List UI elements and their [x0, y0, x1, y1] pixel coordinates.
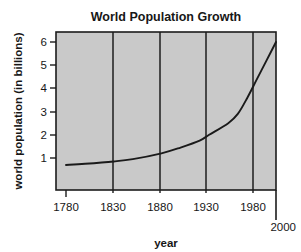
y-tick-label-6: 6	[41, 36, 47, 48]
x-tick-label-2000: 2000	[270, 221, 296, 233]
y-tick-label-1: 1	[41, 152, 47, 164]
chart-container: World Population Growth 6 5 4 3 2 1 worl…	[0, 0, 301, 252]
x-tick-label-1930: 1930	[193, 201, 219, 213]
y-tick-label-5: 5	[41, 59, 47, 71]
y-axis-title: world population (in billions)	[12, 32, 24, 190]
x-tick-label-1880: 1880	[147, 201, 173, 213]
x-axis-title: year	[154, 237, 178, 249]
x-tick-label-1780: 1780	[53, 201, 79, 213]
x-tick-label-1980: 1980	[240, 201, 266, 213]
y-tick-label-3: 3	[41, 106, 47, 118]
x-tick-label-1830: 1830	[100, 201, 126, 213]
world-population-growth-chart: World Population Growth 6 5 4 3 2 1 worl…	[0, 0, 301, 252]
y-tick-label-4: 4	[41, 82, 48, 94]
chart-title: World Population Growth	[91, 10, 241, 24]
y-tick-label-2: 2	[41, 129, 47, 141]
plot-area-background	[56, 32, 276, 190]
